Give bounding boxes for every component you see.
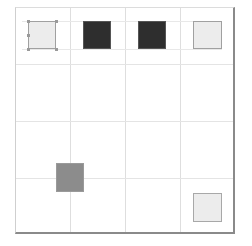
grid-line-horizontal xyxy=(16,178,233,179)
grid-line-horizontal xyxy=(16,121,233,122)
square-r4c4[interactable] xyxy=(193,193,222,222)
grid-line-vertical xyxy=(180,8,181,232)
grid-line-horizontal xyxy=(16,64,233,65)
alignment-guide xyxy=(22,49,222,50)
grid-line-vertical xyxy=(125,8,126,232)
square-r1c1[interactable] xyxy=(28,21,56,49)
grid-canvas[interactable] xyxy=(15,7,235,234)
square-r1c4[interactable] xyxy=(193,21,222,49)
selection-handle[interactable] xyxy=(27,34,30,37)
selection-handle[interactable] xyxy=(27,48,30,51)
selection-handle[interactable] xyxy=(27,20,30,23)
square-r1c2[interactable] xyxy=(83,21,111,49)
square-r4c2[interactable] xyxy=(56,163,84,192)
grid-line-vertical xyxy=(70,8,71,232)
selection-handle[interactable] xyxy=(55,20,58,23)
square-r1c3[interactable] xyxy=(138,21,166,49)
selection-handle[interactable] xyxy=(55,48,58,51)
